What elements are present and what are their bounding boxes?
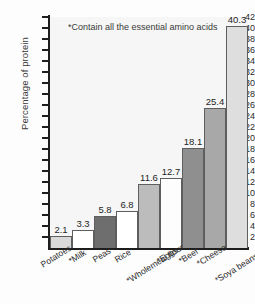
bar-cell[interactable]: 5.8 — [94, 17, 116, 248]
bar[interactable] — [226, 26, 248, 248]
bar-value-label: 25.4 — [206, 97, 225, 107]
y-tick-mark — [42, 82, 49, 84]
y-axis-title: Percentage of protein — [19, 14, 30, 154]
x-tick-label: *Soya beans — [214, 252, 255, 285]
bar-value-label: 40.3 — [228, 15, 247, 25]
y-tick-mark — [42, 236, 49, 238]
bar[interactable] — [160, 178, 182, 248]
y-tick-mark — [42, 225, 49, 227]
bar[interactable] — [116, 211, 138, 248]
bar-cell[interactable]: 40.3 — [226, 17, 248, 248]
y-tick-mark — [42, 38, 49, 40]
bar-cell[interactable]: 2.1 — [50, 17, 72, 248]
bar[interactable] — [204, 108, 226, 248]
y-tick-mark — [42, 192, 49, 194]
y-tick-mark — [42, 214, 49, 216]
bar-value-label: 3.3 — [76, 219, 89, 229]
y-tick-mark — [42, 60, 49, 62]
bar-value-label: 12.7 — [162, 167, 181, 177]
y-tick-mark — [42, 93, 49, 95]
bar[interactable] — [138, 184, 160, 248]
x-axis-labels: Potatoes*MilkPeasRice*Wholemeal flour*Eg… — [50, 250, 248, 304]
x-tick-label: Peas — [91, 246, 112, 264]
y-tick-mark — [42, 181, 49, 183]
bar-value-label: 6.8 — [120, 200, 133, 210]
y-tick-mark — [42, 137, 49, 139]
bar-cell[interactable]: 18.1 — [182, 17, 204, 248]
y-tick-mark — [42, 203, 49, 205]
y-tick-mark — [42, 148, 49, 150]
bar[interactable] — [94, 216, 116, 248]
y-tick-mark — [42, 16, 49, 18]
bar-cell[interactable]: 3.3 — [72, 17, 94, 248]
y-tick-mark — [42, 159, 49, 161]
bar-series: 2.13.35.86.811.612.718.125.440.3 — [50, 17, 248, 248]
y-tick-mark — [42, 27, 49, 29]
bar-cell[interactable]: 12.7 — [160, 17, 182, 248]
y-tick-mark — [42, 170, 49, 172]
bar-cell[interactable]: 25.4 — [204, 17, 226, 248]
bar-cell[interactable]: 11.6 — [138, 17, 160, 248]
y-tick-mark — [42, 71, 49, 73]
bar-value-label: 5.8 — [98, 205, 111, 215]
x-tick-label: Rice — [113, 248, 132, 265]
protein-bar-chart: Percentage of protein 424038363432302826… — [0, 0, 255, 304]
bar-cell[interactable]: 6.8 — [116, 17, 138, 248]
bar-value-label: 2.1 — [54, 225, 67, 235]
bar-value-label: 18.1 — [184, 137, 203, 147]
y-tick-mark — [42, 115, 49, 117]
y-tick-mark — [42, 49, 49, 51]
y-tick-mark — [42, 126, 49, 128]
bar[interactable] — [182, 148, 204, 248]
bar-value-label: 11.6 — [140, 173, 158, 183]
y-tick-mark — [42, 104, 49, 106]
bar[interactable] — [72, 230, 94, 248]
